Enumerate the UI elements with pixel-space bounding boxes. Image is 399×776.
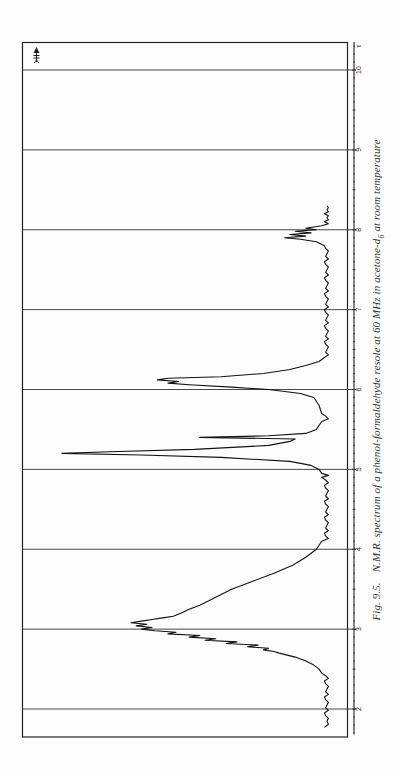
tick-label-3: 3 — [355, 627, 362, 631]
gridlines — [23, 70, 357, 709]
tick-label-6: 6 — [355, 387, 362, 391]
caption-text: N.M.R. spectrum of a phenol-formaldehyde… — [370, 239, 382, 573]
nmr-spectrum-figure: 2345678910τ — [0, 0, 399, 776]
tick-label-10: 10 — [355, 66, 362, 74]
figure-number: Fig. 9.5. — [370, 582, 382, 620]
caption-text-end: at room temperature — [370, 139, 382, 234]
tick-label-4: 4 — [355, 547, 362, 551]
tick-label-8: 8 — [355, 228, 362, 232]
tick-label-5: 5 — [355, 467, 362, 471]
tick-label-2: 2 — [355, 707, 362, 711]
caption-subscript: 6 — [377, 234, 386, 238]
spectrum-trace — [62, 206, 328, 728]
tick-label-7: 7 — [355, 308, 362, 312]
tau-tick-labels: 2345678910τ — [354, 44, 363, 711]
field-arrow-icon — [34, 47, 40, 63]
axis-unit-label: τ — [354, 44, 363, 48]
tick-label-9: 9 — [355, 148, 362, 152]
